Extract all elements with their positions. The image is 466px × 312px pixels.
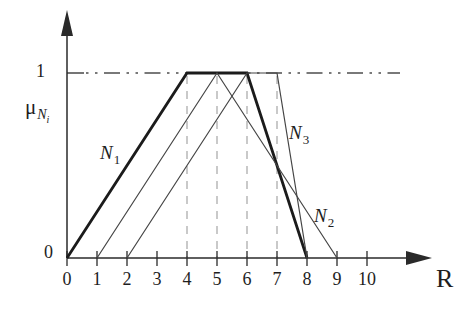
x-tick-label-8: 8 [303,269,312,290]
curve-label-N3-subscript: 3 [303,132,310,147]
plot-svg [0,0,466,312]
fuzzy-membership-figure: 1 μNi 0 0 1 2 3 4 5 6 7 8 9 10 R N1 N2 N… [0,0,466,312]
curve-label-N1: N1 [100,142,119,164]
x-axis-arrowhead [406,251,432,265]
x-tick-label-0: 0 [63,269,72,290]
x-tick-label-3: 3 [153,269,162,290]
x-tick-label-7: 7 [273,269,282,290]
x-tick-label-1: 1 [93,269,102,290]
curve-label-N1-letter: N [100,142,113,163]
x-tick-label-4: 4 [183,269,192,290]
curve-label-N3: N3 [289,122,308,144]
curve-label-N1-subscript: 1 [114,152,121,167]
curve-label-N2-subscript: 2 [328,215,335,230]
x-axis-label: R [436,266,453,292]
curve-label-N2: N2 [314,205,333,227]
x-tick-label-5: 5 [213,269,222,290]
y-axis-label: μNi [25,97,48,118]
x-tick-label-9: 9 [333,269,342,290]
x-tick-label-10: 10 [358,269,376,290]
curve-label-N3-letter: N [289,122,302,143]
x-tick-label-2: 2 [123,269,132,290]
y-tick-label-0: 0 [44,243,53,261]
x-tick-label-6: 6 [243,269,252,290]
curve-label-N2-letter: N [314,205,327,226]
mu-subscript-N: N [37,107,46,122]
y-axis-arrowhead [61,10,73,36]
y-tick-label-1: 1 [36,62,45,80]
mu-symbol: μ [25,95,36,119]
mu-subscript-i: i [47,114,50,125]
